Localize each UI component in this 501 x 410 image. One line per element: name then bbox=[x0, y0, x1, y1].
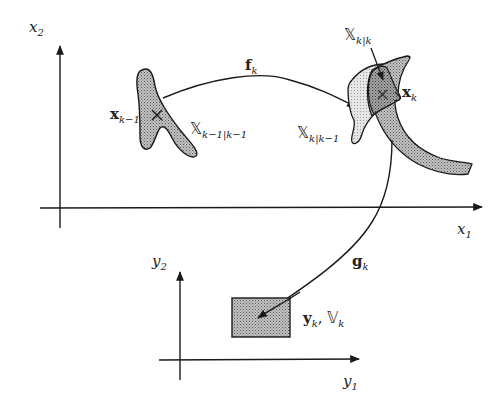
measurement-sub: k bbox=[312, 318, 318, 329]
measurement-set-base: 𝕍 bbox=[327, 309, 338, 327]
measurement-fn-base: g bbox=[352, 252, 363, 270]
measurement-fn-sub: k bbox=[363, 261, 369, 272]
state-sub: k bbox=[411, 92, 417, 103]
measurement-separator: , bbox=[318, 309, 323, 327]
y1-axis-label: y1 bbox=[343, 374, 358, 389]
y2-sub: 2 bbox=[160, 261, 166, 272]
y2-axis-label: y2 bbox=[152, 254, 167, 269]
prev-state-sub: k−1 bbox=[119, 114, 140, 125]
measurement-function-label: gk bbox=[352, 254, 369, 269]
y1-axis bbox=[159, 359, 359, 360]
prev-state-base: x bbox=[110, 105, 119, 123]
transition-arrow bbox=[163, 76, 356, 107]
predicted-set-label: 𝕏k|k−1 bbox=[297, 126, 339, 141]
x1-axis-label: x1 bbox=[457, 222, 472, 237]
state-label: xk bbox=[402, 85, 417, 100]
transition-label: fk bbox=[245, 58, 258, 73]
prev-set-label: 𝕏k−1|k−1 bbox=[190, 122, 247, 137]
measurement-base: y bbox=[303, 309, 312, 327]
predicted-set-base: 𝕏 bbox=[297, 124, 309, 142]
x1-sub: 1 bbox=[465, 229, 471, 240]
posterior-set-base: 𝕏 bbox=[344, 26, 356, 44]
measurement-set-sub: k bbox=[338, 318, 344, 329]
transition-sub: k bbox=[251, 65, 257, 76]
posterior-set-label: 𝕏k|k bbox=[344, 28, 372, 43]
prev-set-base: 𝕏 bbox=[190, 120, 202, 138]
state-base: x bbox=[402, 83, 411, 101]
prior-set-shape bbox=[137, 69, 197, 157]
y1-sub: 1 bbox=[351, 381, 357, 392]
measurement-label: yk, 𝕍k bbox=[303, 311, 344, 326]
predicted-set-sub: k|k−1 bbox=[309, 133, 339, 144]
measurement-function-arrow bbox=[258, 140, 392, 318]
posterior-set-sub: k|k bbox=[356, 35, 372, 46]
x2-axis-label: x2 bbox=[29, 20, 44, 35]
prev-state-label: xk−1 bbox=[110, 107, 140, 122]
x2-sub: 2 bbox=[37, 27, 43, 38]
prev-set-sub: k−1|k−1 bbox=[202, 129, 247, 140]
x1-axis bbox=[40, 207, 482, 208]
